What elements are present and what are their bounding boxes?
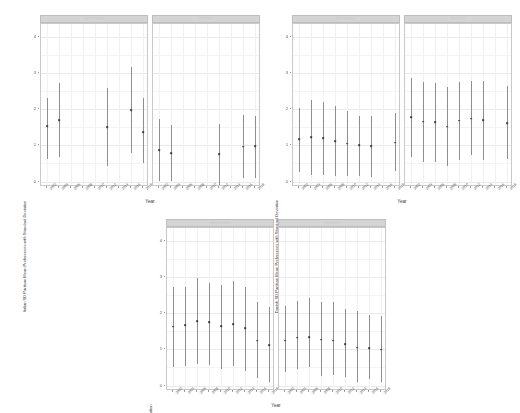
data-point	[296, 337, 298, 339]
x-tick-mark	[232, 390, 233, 392]
data-point	[368, 347, 370, 349]
x-tick-label: 2004	[425, 188, 428, 191]
x-tick-mark	[298, 186, 299, 188]
data-point	[334, 141, 336, 143]
gridline-vertical	[83, 24, 84, 185]
data-point	[142, 131, 144, 133]
x-tick-mark	[506, 186, 507, 188]
data-point	[458, 120, 460, 122]
x-tick-label: 2008	[85, 188, 88, 191]
x-tick-mark	[220, 390, 221, 392]
x-tick-label: 2004	[61, 188, 64, 191]
y-tick-label: 2	[154, 310, 162, 315]
x-tick-mark	[242, 186, 243, 188]
x-tick-label: 2012	[235, 392, 238, 395]
y-tick-label: 3	[280, 69, 288, 74]
x-tick-label: 2014	[233, 188, 236, 191]
data-point	[284, 340, 286, 342]
x-tick-mark	[70, 186, 71, 188]
gridline-vertical	[71, 24, 72, 185]
data-point	[130, 109, 132, 111]
x-tick-mark	[446, 186, 447, 188]
x-tick-mark	[170, 186, 171, 188]
facet-strip-label: WITHIN	[199, 17, 214, 21]
facet-strip-label: BETWEEN	[210, 221, 230, 225]
x-tick-label: 2010	[349, 188, 352, 191]
data-point	[470, 118, 472, 120]
x-tick-mark	[368, 390, 369, 392]
gridline-vertical	[231, 24, 232, 185]
facet-strip-between: BETWEEN	[292, 15, 400, 23]
x-axis-title: Year	[292, 199, 512, 204]
x-tick-mark	[184, 390, 185, 392]
data-point	[380, 349, 382, 351]
x-tick-label: 2016	[259, 392, 262, 395]
data-point	[370, 146, 372, 148]
y-tick-label: 3	[28, 69, 36, 74]
data-point	[244, 327, 246, 329]
data-point	[218, 153, 220, 155]
error-bar	[285, 306, 286, 372]
x-tick-label: 2010	[223, 392, 226, 395]
x-tick-label: 2002	[175, 392, 178, 395]
data-point	[422, 121, 424, 123]
error-bar	[173, 287, 174, 367]
data-point	[46, 125, 48, 127]
x-tick-label: 2018	[383, 392, 386, 395]
x-tick-label: 2014	[247, 392, 250, 395]
y-tick-label: 1	[28, 142, 36, 147]
data-point	[268, 345, 270, 347]
plot-panel	[278, 227, 386, 390]
y-axis-title: Italian SD Partisan Mean Preferences wit…	[20, 175, 30, 338]
x-tick-mark	[82, 186, 83, 188]
facet-strip-label: WITHIN	[325, 221, 340, 225]
data-point	[170, 152, 172, 154]
x-tick-label: 2012	[221, 188, 224, 191]
gridline-vertical	[95, 24, 96, 185]
data-point	[254, 146, 256, 148]
x-tick-label: 2018	[257, 188, 260, 191]
data-point	[346, 143, 348, 145]
x-tick-label: 2008	[211, 392, 214, 395]
facet-strip-between: BETWEEN	[166, 219, 274, 227]
x-tick-mark	[284, 390, 285, 392]
error-bar	[297, 301, 298, 369]
data-point	[106, 126, 108, 128]
data-point	[208, 321, 210, 323]
data-point	[298, 138, 300, 140]
error-bar	[209, 283, 210, 365]
x-tick-mark	[158, 186, 159, 188]
y-tick-label: 1	[280, 142, 288, 147]
data-point	[310, 137, 312, 139]
y-tick-label: 1	[154, 346, 162, 351]
x-tick-mark	[494, 186, 495, 188]
y-tick-label: 0	[280, 178, 288, 183]
data-point	[434, 121, 436, 123]
x-tick-mark	[394, 186, 395, 188]
x-tick-mark	[94, 186, 95, 188]
x-tick-label: 2016	[497, 188, 500, 191]
x-tick-mark	[358, 186, 359, 188]
data-point	[506, 122, 508, 124]
x-tick-mark	[58, 186, 59, 188]
x-tick-label: 2010	[335, 392, 338, 395]
y-tick-label: 2	[280, 106, 288, 111]
x-tick-mark	[118, 186, 119, 188]
data-point	[482, 120, 484, 122]
error-bar	[185, 287, 186, 367]
x-tick-label: 2004	[313, 188, 316, 191]
x-tick-mark	[370, 186, 371, 188]
data-point	[242, 146, 244, 148]
x-tick-mark	[182, 186, 183, 188]
facet-strip-within: WITHIN	[404, 15, 512, 23]
x-tick-mark	[380, 390, 381, 392]
x-tick-label: 2014	[121, 188, 124, 191]
plot-panel	[152, 23, 260, 186]
y-tick-label: 3	[154, 273, 162, 278]
x-tick-mark	[254, 186, 255, 188]
data-point	[394, 142, 396, 144]
x-tick-label: 2002	[161, 188, 164, 191]
x-tick-mark	[332, 390, 333, 392]
plot-panel	[404, 23, 512, 186]
data-point	[220, 325, 222, 327]
